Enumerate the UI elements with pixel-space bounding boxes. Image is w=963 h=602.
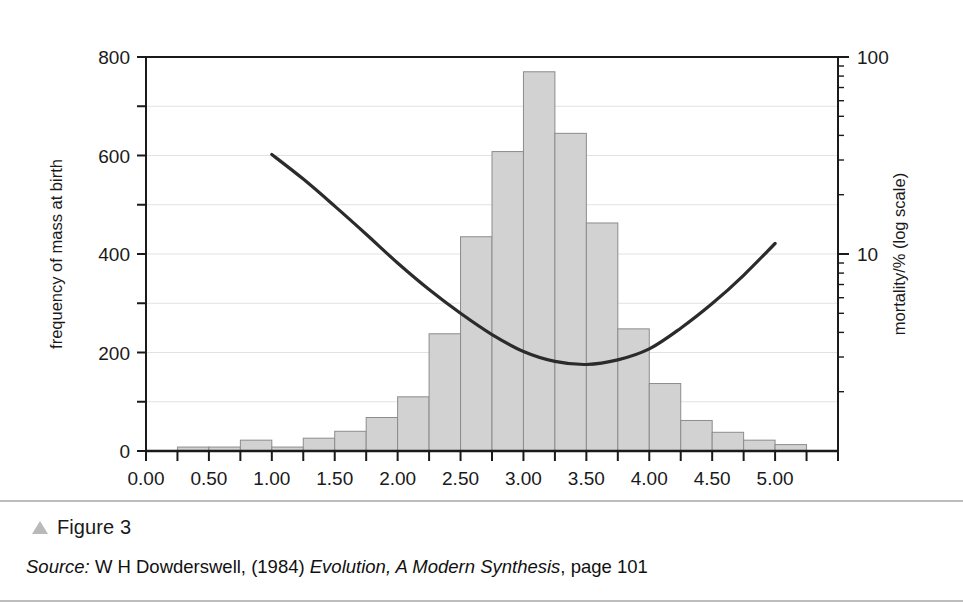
histogram-bar [366, 418, 397, 451]
x-tick-label: 4.00 [631, 468, 668, 489]
y-tick-label-right: 100 [857, 47, 889, 68]
x-tick-label: 3.50 [568, 468, 605, 489]
x-tick-label: 2.00 [379, 468, 416, 489]
source-page: , page 101 [560, 556, 647, 577]
y-tick-label-left: 400 [98, 244, 130, 265]
histogram-bar [335, 431, 366, 451]
histogram-bar [555, 133, 586, 451]
figure-root: 0200400600800100100.000.501.001.502.002.… [0, 0, 963, 602]
y-tick-label-right: 10 [857, 244, 878, 265]
histogram-bar [240, 440, 271, 451]
x-tick-label: 3.00 [505, 468, 542, 489]
histogram-bar [712, 432, 743, 451]
histogram-bar [461, 237, 492, 451]
figure-label-row: Figure 3 [32, 516, 131, 539]
source-author: W H Dowderswell, (1984) [95, 556, 305, 577]
histogram-bar [681, 420, 712, 451]
bar-series [177, 72, 806, 451]
histogram-bar [492, 152, 523, 451]
y-tick-label-left: 200 [98, 343, 130, 364]
histogram-bar [429, 334, 460, 451]
x-tick-label: 4.50 [694, 468, 731, 489]
y-axis-title-left: frequency of mass at birth [47, 159, 65, 349]
source-prefix: Source: [26, 556, 90, 577]
x-tick-label: 2.50 [442, 468, 479, 489]
figure-label: Figure 3 [57, 516, 131, 539]
x-tick-label: 0.50 [190, 468, 227, 489]
x-tick-label: 1.00 [253, 468, 290, 489]
x-tick-label: 0.00 [128, 468, 165, 489]
y-axis-title-right: mortality/% (log scale) [890, 173, 908, 335]
y-tick-label-left: 600 [98, 146, 130, 167]
histogram-bar [586, 223, 617, 451]
triangle-icon [32, 521, 48, 534]
source-line: Source: W H Dowderswell, (1984) Evolutio… [26, 556, 648, 578]
histogram-bar [649, 384, 680, 451]
histogram-bar [398, 397, 429, 451]
caption-top-divider [0, 500, 963, 502]
y-tick-label-left: 0 [119, 441, 130, 462]
x-tick-label: 5.00 [757, 468, 794, 489]
histogram-bar [618, 329, 649, 451]
y-tick-label-left: 800 [98, 47, 130, 68]
chart-plot-area: 0200400600800100100.000.501.001.502.002.… [0, 0, 963, 500]
caption-block: Figure 3 Source: W H Dowderswell, (1984)… [0, 500, 963, 602]
histogram-bar [523, 72, 554, 451]
x-tick-label: 1.50 [316, 468, 353, 489]
histogram-bar [744, 440, 775, 451]
source-title: Evolution, A Modern Synthesis [310, 556, 561, 577]
histogram-bar [303, 438, 334, 451]
histogram-mortality-chart: 0200400600800100100.000.501.001.502.002.… [0, 0, 963, 500]
